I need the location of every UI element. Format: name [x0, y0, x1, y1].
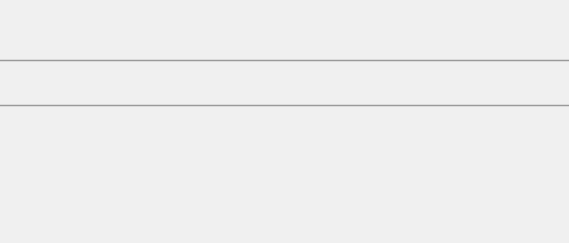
figure-background	[0, 0, 569, 243]
figure-root	[0, 0, 569, 243]
